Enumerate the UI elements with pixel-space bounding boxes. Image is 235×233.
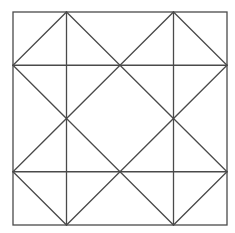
geometric-diagram xyxy=(0,0,235,233)
outer-square xyxy=(13,12,227,225)
shapes-layer xyxy=(13,12,227,225)
